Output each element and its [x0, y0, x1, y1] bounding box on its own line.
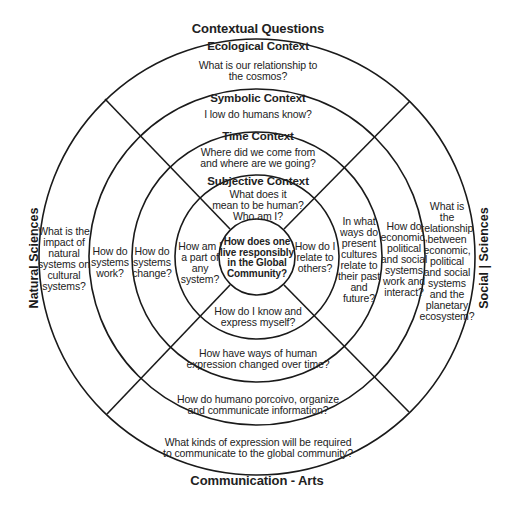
- subjective-top-question: What does it mean to be human? Who am I?: [212, 189, 304, 222]
- symbolic-top-question: I low do humans know?: [204, 109, 312, 120]
- label-communication-arts: Communication - Arts: [190, 475, 323, 486]
- symbolic-left-question: How do systems work?: [91, 246, 129, 279]
- label-contextual-questions: Contextual Questions: [192, 23, 324, 34]
- label-social-sciences: Social | Sciences: [477, 207, 491, 308]
- concentric-context-diagram: Contextual Questions Communication - Art…: [0, 0, 519, 507]
- ecological-left-question: What is the impact of natural systems on…: [38, 226, 90, 292]
- time-top-question: Where did we come from and where are we …: [200, 147, 316, 169]
- ecological-top-question: What is our relationship to the cosmos?: [199, 60, 318, 82]
- time-bottom-question: How have ways of human expression change…: [186, 348, 329, 370]
- center-question: How does one live responsibly in the Glo…: [220, 237, 294, 279]
- subjective-left-question: How am I a part of any system?: [178, 241, 222, 285]
- ecological-context-title: Ecological Context: [207, 41, 309, 52]
- symbolic-right-question: How do economic, political and social sy…: [381, 221, 428, 298]
- time-context-title: Time Context: [222, 131, 293, 142]
- ecological-bottom-question: What kinds of expression will be require…: [163, 437, 353, 459]
- subjective-bottom-question: How do I know and express myself?: [214, 306, 302, 328]
- time-right-question: In what ways do present cultures relate …: [338, 216, 380, 304]
- subjective-right-question: How do I relate to others?: [295, 241, 336, 274]
- symbolic-bottom-question: How do humano porcoivo, organize and com…: [177, 394, 339, 416]
- symbolic-context-title: Symbolic Context: [210, 93, 306, 104]
- time-left-question: How do systems change?: [132, 246, 172, 279]
- subjective-context-title: Subjective Context: [207, 176, 309, 187]
- ecological-right-question: What is the relationship between economi…: [419, 201, 474, 322]
